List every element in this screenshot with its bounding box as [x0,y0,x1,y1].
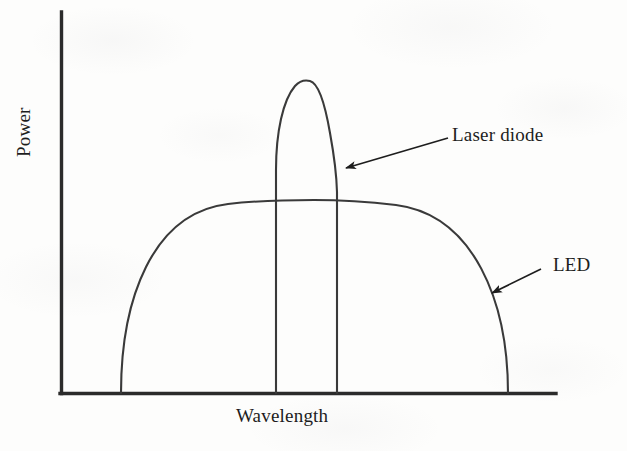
arrow-laser-diode [346,138,448,168]
y-axis-label: Power [13,107,35,157]
x-axis-label: Wavelength [236,405,328,427]
arrow-led [492,269,541,293]
curve-led [121,200,508,393]
annotation-laser-diode: Laser diode [452,124,543,146]
curve-laser-diode [276,81,337,393]
annotation-led: LED [553,254,591,276]
figure-spectral-output: Power Wavelength Laser diode LED [0,0,627,451]
plot-canvas [0,0,627,451]
